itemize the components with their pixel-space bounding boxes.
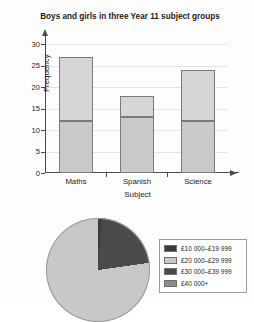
x-category-label-spanish: Spanish xyxy=(108,177,166,186)
y-tick-label-30: 30 xyxy=(14,41,40,49)
y-tick-label-10: 10 xyxy=(14,127,40,135)
x-axis-title: Subject xyxy=(45,190,230,199)
y-tick-label-15: 15 xyxy=(14,105,40,113)
legend-item-band-3: £30 000–£39 999 xyxy=(164,266,243,278)
bar-science-upper-segment xyxy=(181,70,215,122)
y-tick-label-25: 25 xyxy=(14,62,40,70)
legend-swatch-band-3 xyxy=(164,268,177,275)
gridline-30 xyxy=(45,44,228,45)
y-axis-arrow-icon xyxy=(42,29,48,36)
legend-label-band-4: £40 000+ xyxy=(181,280,208,287)
bar-maths xyxy=(59,57,93,173)
bar-chart-plot-area: 30 25 20 15 10 5 0 Frequency xyxy=(45,44,230,173)
legend-swatch-band-1 xyxy=(164,245,177,252)
pie-chart-legend: £10 000–£19 999 £20 000–£29 999 £30 000–… xyxy=(159,239,247,293)
bar-spanish-upper-segment xyxy=(120,96,154,118)
legend-item-band-1: £10 000–£19 999 xyxy=(164,243,243,255)
bar-spanish-lower-segment xyxy=(120,117,154,173)
x-tick-1 xyxy=(106,173,107,177)
x-category-label-maths: Maths xyxy=(47,177,105,186)
legend-item-band-4: £40 000+ xyxy=(164,278,243,290)
legend-label-band-2: £20 000–£29 999 xyxy=(181,257,232,264)
y-axis-title: Frequency xyxy=(42,54,51,92)
y-tick-label-5: 5 xyxy=(14,148,40,156)
y-tick-10 xyxy=(41,130,45,131)
pie-chart-graphic xyxy=(46,218,150,322)
y-tick-label-20: 20 xyxy=(14,84,40,92)
bar-science-lower-segment xyxy=(181,121,215,173)
x-category-label-science: Science xyxy=(169,177,227,186)
y-tick-label-0: 0 xyxy=(14,170,40,178)
y-tick-30 xyxy=(41,44,45,45)
x-tick-2 xyxy=(167,173,168,177)
bar-chart-title: Boys and girls in three Year 11 subject … xyxy=(30,12,230,23)
legend-swatch-band-2 xyxy=(164,257,177,264)
bar-maths-lower-segment xyxy=(59,121,93,173)
y-tick-15 xyxy=(41,109,45,110)
y-tick-0 xyxy=(41,173,45,174)
legend-swatch-band-4 xyxy=(164,280,177,287)
pie-chart-figure: £10 000–£19 999 £20 000–£29 999 £30 000–… xyxy=(0,205,254,299)
legend-label-band-3: £30 000–£39 999 xyxy=(181,268,232,275)
bar-spanish xyxy=(120,96,154,173)
legend-item-band-2: £20 000–£29 999 xyxy=(164,255,243,267)
y-tick-5 xyxy=(41,152,45,153)
bar-maths-upper-segment xyxy=(59,57,93,122)
x-axis-arrow-icon xyxy=(230,170,237,176)
bar-science xyxy=(181,70,215,173)
legend-label-band-1: £10 000–£19 999 xyxy=(181,245,232,252)
bar-chart-figure: Boys and girls in three Year 11 subject … xyxy=(0,0,254,205)
